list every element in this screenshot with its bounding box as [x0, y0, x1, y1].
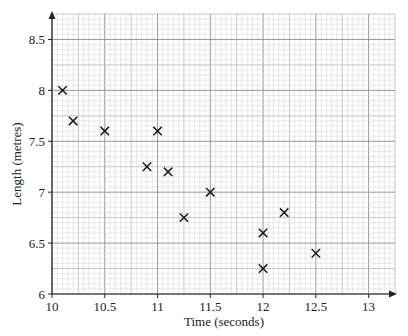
x-tick-label: 10.5 — [93, 299, 116, 314]
axes — [49, 11, 398, 298]
x-tick-label: 13 — [362, 299, 375, 314]
y-axis-ticks: 66.577.588.5 — [29, 32, 52, 302]
y-tick-label: 6.5 — [29, 236, 45, 251]
grid — [52, 14, 395, 294]
x-axis-label: Time (seconds) — [184, 314, 264, 329]
y-axis-label: Length (metres) — [9, 122, 24, 205]
x-tick-label: 12.5 — [304, 299, 327, 314]
x-axis-ticks: 1010.51111.51212.513 — [46, 294, 376, 314]
x-axis-arrow-icon — [389, 291, 397, 298]
y-axis-arrow-icon — [49, 11, 56, 19]
x-tick-label: 10 — [46, 299, 59, 314]
scatter-chart: 1010.51111.51212.513 66.577.588.5 Time (… — [0, 0, 408, 336]
y-tick-label: 7 — [39, 185, 46, 200]
y-tick-label: 8 — [39, 83, 46, 98]
x-tick-label: 12 — [257, 299, 270, 314]
x-tick-label: 11 — [151, 299, 164, 314]
x-tick-label: 11.5 — [199, 299, 221, 314]
y-tick-label: 8.5 — [29, 32, 45, 47]
y-tick-label: 6 — [39, 287, 46, 302]
y-tick-label: 7.5 — [29, 134, 45, 149]
